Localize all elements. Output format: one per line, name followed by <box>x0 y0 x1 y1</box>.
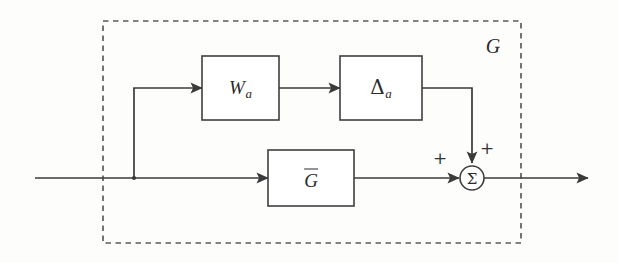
uncertainty-block-label: Δa <box>370 77 391 100</box>
weight-block-subscript: a <box>245 86 252 101</box>
nominal-plant-block-label: G <box>304 169 318 190</box>
diagram-canvas <box>0 0 618 263</box>
summing-junction-symbol: Σ <box>467 172 478 187</box>
envelope-label: G <box>486 36 500 56</box>
uncertainty-envelope <box>103 21 521 243</box>
uncertainty-block-subscript: a <box>385 87 392 102</box>
sum-sign-nominal-path: + <box>433 150 447 167</box>
weight-block-symbol: W <box>229 77 245 98</box>
weight-block-label: Wa <box>229 78 252 100</box>
sum-sign-uncertainty-path: + <box>480 140 494 157</box>
nominal-plant-block-symbol: G <box>304 169 318 190</box>
uncertainty-block-symbol: Δ <box>370 75 384 99</box>
block-diagram-figure: G Wa Δa G Σ + + <box>0 0 618 263</box>
